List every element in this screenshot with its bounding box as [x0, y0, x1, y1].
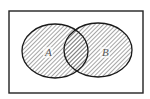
venn-diagram: A B — [0, 0, 150, 99]
set-a-label: A — [44, 46, 52, 58]
set-b-label: B — [102, 46, 109, 58]
